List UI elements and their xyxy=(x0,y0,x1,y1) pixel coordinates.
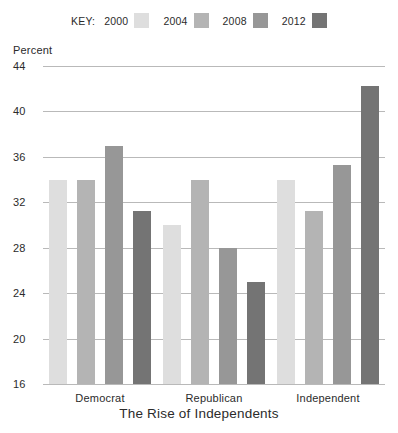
bar-republican-2004[interactable] xyxy=(191,180,209,384)
chart-title: The Rise of Independents xyxy=(0,406,398,421)
bar-republican-2000[interactable] xyxy=(163,225,181,384)
legend-swatch-2008 xyxy=(253,13,268,28)
legend-item-2008: 2008 xyxy=(223,13,268,28)
legend-entries: 2000200420082012 xyxy=(104,13,327,28)
legend-item-label: 2004 xyxy=(163,15,187,27)
bar-independent-2012[interactable] xyxy=(361,86,379,384)
y-axis-tick-label: 44 xyxy=(13,60,39,72)
y-axis-tick-label: 32 xyxy=(13,196,39,208)
legend-item-label: 2012 xyxy=(282,15,306,27)
bar-groups: DemocratRepublicanIndependent xyxy=(43,66,385,384)
gridline xyxy=(43,384,385,385)
y-axis-tick-label: 36 xyxy=(13,151,39,163)
y-axis-tick-label: 20 xyxy=(13,333,39,345)
bar-group-republican: Republican xyxy=(157,66,271,384)
bar-group-independent: Independent xyxy=(271,66,385,384)
y-axis-tick-label: 24 xyxy=(13,287,39,299)
legend-swatch-2004 xyxy=(194,13,209,28)
bar-democrat-2000[interactable] xyxy=(49,180,67,384)
bar-democrat-2004[interactable] xyxy=(77,180,95,384)
y-axis-title: Percent xyxy=(13,44,52,56)
bar-democrat-2012[interactable] xyxy=(133,211,151,384)
plot-area: DemocratRepublicanIndependent xyxy=(43,66,385,384)
legend-item-2012: 2012 xyxy=(282,13,327,28)
legend-item-2000: 2000 xyxy=(104,13,149,28)
y-axis-tick-label: 16 xyxy=(13,378,39,390)
x-axis-label-independent: Independent xyxy=(271,392,385,404)
legend-item-label: 2008 xyxy=(223,15,247,27)
legend-title: KEY: xyxy=(71,15,95,27)
legend-item-label: 2000 xyxy=(104,15,128,27)
bar-independent-2008[interactable] xyxy=(333,165,351,384)
bar-democrat-2008[interactable] xyxy=(105,146,123,385)
bar-independent-2000[interactable] xyxy=(277,180,295,384)
bar-republican-2008[interactable] xyxy=(219,248,237,384)
x-axis-label-republican: Republican xyxy=(157,392,271,404)
y-axis-tick-label: 28 xyxy=(13,242,39,254)
legend-swatch-2012 xyxy=(312,13,327,28)
bar-independent-2004[interactable] xyxy=(305,211,323,384)
plot-wrapper: 1620242832364044 DemocratRepublicanIndep… xyxy=(13,66,385,384)
y-axis-tick-label: 40 xyxy=(13,105,39,117)
bar-chart: KEY: 2000200420082012 Percent 1620242832… xyxy=(0,0,398,433)
bar-group-bars xyxy=(43,66,157,384)
legend-swatch-2000 xyxy=(134,13,149,28)
chart-legend: KEY: 2000200420082012 xyxy=(0,13,398,28)
bar-group-bars xyxy=(271,66,385,384)
bar-group-democrat: Democrat xyxy=(43,66,157,384)
bar-republican-2012[interactable] xyxy=(247,282,265,384)
bar-group-bars xyxy=(157,66,271,384)
x-axis-label-democrat: Democrat xyxy=(43,392,157,404)
legend-item-2004: 2004 xyxy=(163,13,208,28)
